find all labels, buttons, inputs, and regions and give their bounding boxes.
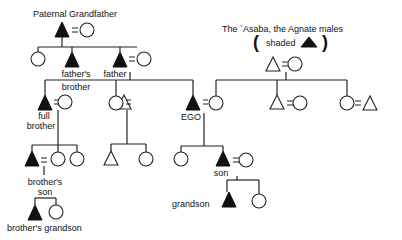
grandfather-triangle bbox=[55, 22, 69, 37]
brothers-grandson-label: brother's grandson bbox=[7, 223, 82, 233]
fathers-brother-label-1: father's bbox=[61, 69, 90, 79]
full-brother-label-1: full bbox=[38, 111, 50, 121]
full-brother-label-2: brother bbox=[27, 121, 56, 131]
ego-triangle bbox=[186, 95, 200, 110]
father-triangle bbox=[113, 52, 127, 67]
grandson-triangle bbox=[222, 192, 236, 207]
brothers-son-triangle bbox=[25, 151, 39, 166]
fathers-brother-label-2: brother bbox=[62, 82, 91, 92]
father-label: father bbox=[103, 69, 126, 79]
paternal-grandfather-label: Paternal Grandfather bbox=[33, 9, 117, 19]
legend-shaded-triangle bbox=[301, 37, 317, 47]
legend-close-paren: ) bbox=[322, 33, 328, 51]
brothers-son-label-1: brother's bbox=[28, 177, 63, 187]
legend-shaded-label: shaded bbox=[266, 38, 296, 48]
legend-open-paren: ( bbox=[253, 33, 259, 51]
brothers-son-label-2: son bbox=[38, 187, 53, 197]
full-brother-triangle bbox=[38, 95, 52, 110]
son-label: son bbox=[214, 168, 229, 178]
son-triangle bbox=[216, 151, 230, 166]
ego-label: EGO bbox=[181, 112, 201, 122]
brothers-grandson-triangle bbox=[28, 205, 42, 220]
grandson-label: grandson bbox=[172, 199, 210, 209]
fathers-brother-triangle bbox=[65, 52, 79, 67]
